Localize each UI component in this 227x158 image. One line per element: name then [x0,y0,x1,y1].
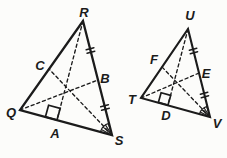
t2-tick-ue-2 [190,52,197,54]
t1-tick-rb-2 [87,51,95,53]
vertex-label-v: V [213,116,223,131]
point-label-d: D [161,108,171,123]
t2-tick-ev-2 [201,96,208,98]
t1-tick-bs-2 [102,108,110,110]
t2-altitude-dashed [168,29,188,105]
t2-tick-ue-1 [189,48,196,50]
t2-right-angle-mark [158,93,170,105]
vertex-label-r: R [79,5,89,20]
point-label-f: F [150,52,159,67]
similar-triangles-diagram: R Q S C B A [0,0,227,158]
t1-altitude-dashed [57,21,83,120]
t2-tick-ev-1 [200,92,207,94]
geometry-figure: R Q S C B A [0,0,227,158]
t1-outline [20,21,112,135]
vertex-label-u: U [185,8,195,23]
point-label-e: E [202,66,211,81]
triangle-tuv: U T V F E D [128,8,223,131]
triangle-qrs: R Q S C B A [6,5,124,148]
point-label-b: B [100,71,109,86]
point-label-c: C [35,58,45,73]
t1-tick-bs-1 [101,105,109,107]
point-label-a: A [49,126,59,141]
t2-outline [141,29,210,117]
vertex-label-q: Q [6,105,16,120]
vertex-label-s: S [115,133,124,148]
t1-tick-rb-1 [86,48,94,50]
vertex-label-t: T [128,92,137,107]
